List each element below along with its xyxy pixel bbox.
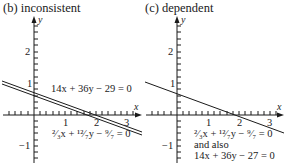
y-ticks	[34, 26, 38, 158]
equation-label: ²⁄₃x + ¹²⁄₇y − ⁹⁄₇ = 0	[52, 128, 131, 139]
y-axis-arrow-icon	[32, 16, 37, 23]
panel-dependent: (c) dependent	[142, 0, 284, 163]
y-axis-arrow-icon	[175, 16, 180, 23]
y-tick-label: 1	[170, 78, 175, 89]
coincident-line	[145, 82, 284, 133]
x-axis-arrow-icon	[135, 113, 142, 118]
y-axis-label: y	[180, 14, 186, 25]
y-tick-label: −1	[19, 140, 30, 151]
x-tick-label: 1	[63, 117, 68, 128]
x-axis-arrow-icon	[277, 113, 284, 118]
x-ticks	[152, 111, 276, 115]
equation-label: 14x + 36y − 29 = 0	[51, 83, 132, 94]
y-ticks	[177, 26, 181, 158]
y-tick-label: 2	[168, 46, 173, 57]
panel-inconsistent: (b) inconsistent	[0, 0, 142, 163]
x-tick-label: 1	[206, 117, 211, 128]
x-tick-label: 2	[237, 117, 242, 128]
x-axis-label: x	[276, 101, 282, 112]
x-axis-label: x	[133, 101, 139, 112]
equation-label: 14x + 36y − 27 = 0	[194, 150, 275, 161]
equation-label: ²⁄₃x + ¹²⁄₇y − ⁹⁄₇ = 0	[194, 128, 273, 139]
x-tick-label: 3	[267, 117, 272, 128]
y-tick-label: 2	[25, 46, 30, 57]
equation-connector: and also	[194, 139, 229, 150]
x-ticks	[9, 111, 133, 115]
y-tick-label: 1	[27, 78, 32, 89]
y-axis-label: y	[37, 14, 43, 25]
y-tick-label: −1	[162, 140, 173, 151]
